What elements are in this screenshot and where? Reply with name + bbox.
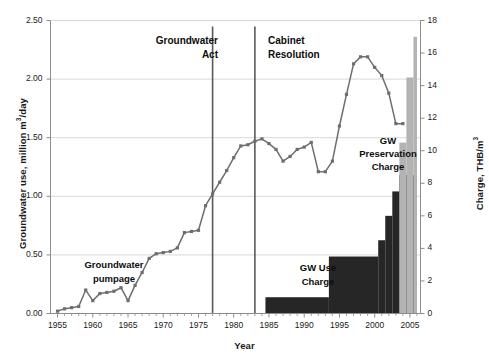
x-tick-label: 1995 [319,320,359,330]
x-tick-label: 1975 [179,320,219,330]
x-axis-label: Year [0,340,489,351]
y-axis-label-left: Groundwater use, million m3/day [17,94,28,254]
annotation-groundwater-pumpage: Groundwater pumpage [58,258,170,286]
y-tick-label-left: 1.00 [9,190,43,200]
x-tick-label: 1980 [214,320,254,330]
annotation-groundwater-act: Groundwater Act [126,34,218,61]
y-tick-label-right: 0 [428,308,462,318]
chart-canvas [0,0,489,359]
y-tick-label-right: 10 [428,145,462,155]
annotation-cabinet-resolution: Cabinet Resolution [268,34,364,61]
y-tick-label-right: 14 [428,80,462,90]
y-tick-label-left: 1.50 [9,132,43,142]
x-tick-marks [58,314,417,318]
x-tick-label: 1955 [38,320,78,330]
annotation-gw-preservation-charge: GW Preservation Charge [352,134,424,173]
x-tick-label: 1970 [143,320,183,330]
annotation-vertical-lines [213,27,255,314]
gw-preservation-charge-bars [399,37,417,314]
y-tick-label-right: 2 [428,275,462,285]
annotation-gw-use-charge: GW Use Charge [278,261,358,289]
y-axis-label-right: Charge, THB/m3 [474,94,485,254]
x-tick-label: 1960 [73,320,113,330]
chart-figure: Groundwater use, million m3/day Charge, … [0,0,489,359]
y-tick-label-left: 0.00 [9,308,43,318]
y-tick-label-left: 0.50 [9,249,43,259]
y-tick-label-left: 2.00 [9,73,43,83]
x-tick-label: 1990 [284,320,324,330]
x-tick-label: 2000 [355,320,395,330]
y-tick-label-right: 18 [428,15,462,25]
y-tick-label-right: 8 [428,177,462,187]
y-tick-label-right: 6 [428,210,462,220]
y-tick-label-right: 12 [428,112,462,122]
x-tick-label: 2005 [390,320,430,330]
y-tick-label-left: 2.50 [9,15,43,25]
y-tick-label-right: 16 [428,47,462,57]
y-tick-label-right: 4 [428,242,462,252]
x-tick-label: 1965 [108,320,148,330]
x-tick-label: 1985 [249,320,289,330]
